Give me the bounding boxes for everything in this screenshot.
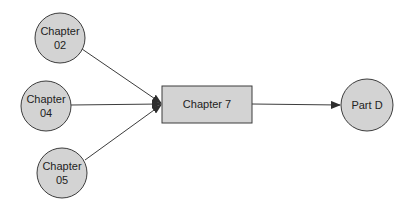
- edge-chapter04-to-chapter7: [71, 104, 161, 105]
- node-label: Chapter: [42, 160, 81, 172]
- node-label: Part D: [351, 99, 382, 111]
- node-chapter-7: Chapter 7: [162, 86, 252, 123]
- node-label: 02: [54, 39, 66, 51]
- node-label: Chapter: [40, 25, 79, 37]
- edge-chapter02-to-chapter7: [82, 49, 161, 103]
- edge-chapter7-to-partd: [252, 104, 340, 105]
- node-label: 04: [40, 107, 52, 119]
- diagram-canvas: Chapter 02 Chapter 04 Chapter 05 Chapter…: [0, 0, 411, 209]
- node-label: Chapter 7: [183, 98, 231, 110]
- node-part-d: Part D: [341, 79, 393, 131]
- node-label: 05: [56, 174, 68, 186]
- node-chapter-05: Chapter 05: [37, 148, 87, 198]
- node-label: Chapter: [26, 93, 65, 105]
- node-chapter-04: Chapter 04: [21, 81, 71, 131]
- node-chapter-02: Chapter 02: [35, 13, 85, 63]
- edge-chapter05-to-chapter7: [85, 105, 161, 160]
